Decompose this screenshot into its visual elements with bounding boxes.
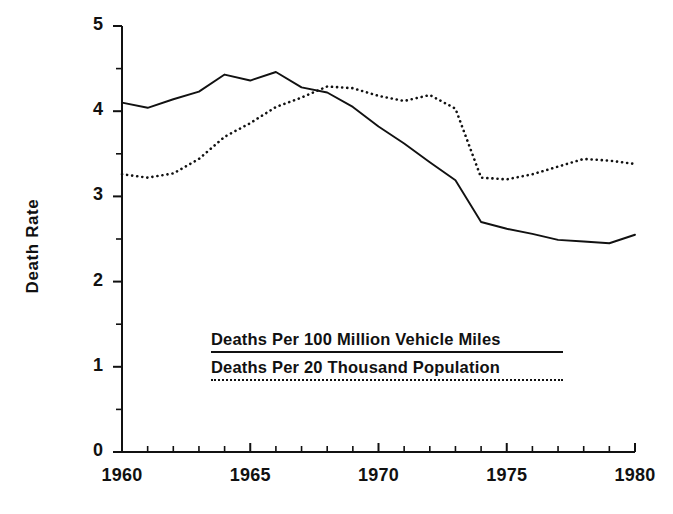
- series-line-population: [122, 86, 635, 179]
- legend-swatch-dotted-line: [211, 379, 563, 381]
- chart-figure: Death Rate 012345 19601965197019751980 D…: [0, 0, 673, 514]
- x-axis-ticks: [122, 443, 635, 452]
- x-tick-label: 1980: [600, 465, 670, 486]
- y-tick-label: 2: [77, 270, 103, 291]
- y-tick-label: 4: [77, 99, 103, 120]
- y-tick-label: 3: [77, 184, 103, 205]
- y-tick-label: 5: [77, 14, 103, 35]
- legend-item-vehicle-miles: Deaths Per 100 Million Vehicle Miles: [211, 330, 563, 353]
- x-tick-label: 1975: [472, 465, 542, 486]
- data-series-group: [122, 72, 635, 243]
- legend-label-vehicle-miles: Deaths Per 100 Million Vehicle Miles: [211, 330, 563, 351]
- legend-label-population: Deaths Per 20 Thousand Population: [211, 358, 563, 379]
- legend-swatch-solid-line: [211, 351, 563, 353]
- legend-item-population: Deaths Per 20 Thousand Population: [211, 358, 563, 381]
- x-tick-label: 1970: [344, 465, 414, 486]
- x-tick-label: 1965: [215, 465, 285, 486]
- y-axis-ticks: [113, 26, 122, 452]
- y-tick-label: 1: [77, 355, 103, 376]
- chart-plot-area: [0, 0, 673, 514]
- y-tick-label: 0: [77, 440, 103, 461]
- x-tick-label: 1960: [87, 465, 157, 486]
